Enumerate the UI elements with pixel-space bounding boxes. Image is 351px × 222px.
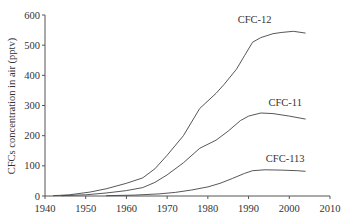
y-tick-label: 500 xyxy=(24,40,40,51)
series-label-cfc-12: CFC-12 xyxy=(238,14,272,25)
cfc-concentration-chart: 0100200300400500600194019501960197019801… xyxy=(0,0,351,222)
axes: 0100200300400500600194019501960197019801… xyxy=(24,10,340,215)
series-line-cfc-113 xyxy=(106,170,306,196)
y-tick-label: 400 xyxy=(24,70,40,81)
x-tick-label: 1980 xyxy=(197,203,218,214)
series-labels: CFC-12CFC-11CFC-113 xyxy=(238,14,305,164)
x-tick-label: 1970 xyxy=(157,203,178,214)
series-label-cfc-113: CFC-113 xyxy=(266,153,305,164)
x-tick-label: 1960 xyxy=(116,203,137,214)
y-tick-label: 200 xyxy=(24,130,40,141)
series-label-cfc-11: CFC-11 xyxy=(268,97,301,108)
x-tick-label: 1950 xyxy=(75,203,96,214)
y-axis-title: CFCs concentration in air (pptv) xyxy=(6,37,18,174)
y-tick-label: 0 xyxy=(35,191,40,202)
y-tick-label: 300 xyxy=(24,100,40,111)
y-tick-label: 100 xyxy=(24,160,40,171)
x-tick-label: 1990 xyxy=(238,203,259,214)
x-tick-label: 2000 xyxy=(279,203,300,214)
x-tick-label: 2010 xyxy=(320,203,341,214)
x-tick-label: 1940 xyxy=(35,203,56,214)
y-tick-label: 600 xyxy=(24,10,40,21)
series-lines xyxy=(53,31,306,195)
